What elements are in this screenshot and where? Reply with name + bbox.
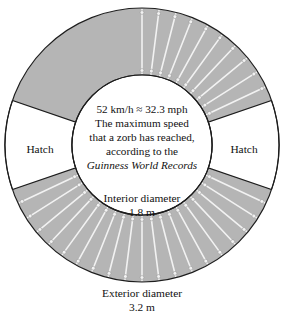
spoke-grommet-icon xyxy=(260,200,264,204)
spoke-grommet-icon xyxy=(91,266,95,270)
spoke-grommet-icon xyxy=(73,175,77,179)
spoke-grommet-icon xyxy=(173,271,177,275)
spoke-grommet-icon xyxy=(184,203,188,207)
spoke-grommet-icon xyxy=(191,197,195,201)
spoke-grommet-icon xyxy=(252,214,256,218)
spoke-grommet-icon xyxy=(140,276,144,280)
spoke-grommet-icon xyxy=(107,271,111,275)
spoke-grommet-icon xyxy=(189,20,193,24)
spoke-grommet-icon xyxy=(203,103,207,107)
spoke-grommet-icon xyxy=(168,212,172,216)
spoke-grommet-icon xyxy=(173,15,177,19)
spoke-grommet-icon xyxy=(157,12,161,16)
spoke-grommet-icon xyxy=(96,203,100,207)
spoke-grommet-icon xyxy=(218,36,222,40)
spoke-grommet-icon xyxy=(242,228,246,232)
spoke-grommet-icon xyxy=(149,69,153,73)
center-note-line-4: according to the xyxy=(106,145,178,157)
spoke-grommet-icon xyxy=(122,215,126,219)
spoke-grommet-icon xyxy=(76,259,80,263)
interior-diameter-value: 1.8 m xyxy=(129,206,155,218)
spoke-grommet-icon xyxy=(176,208,180,212)
spoke-grommet-icon xyxy=(140,218,144,222)
spoke-grommet-icon xyxy=(176,78,180,82)
spoke-grommet-icon xyxy=(123,275,127,279)
spoke-grommet-icon xyxy=(140,11,144,15)
spoke-grommet-icon xyxy=(159,71,163,75)
spoke-grommet-icon xyxy=(113,212,117,216)
spoke-grommet-icon xyxy=(218,250,222,254)
spoke-grommet-icon xyxy=(28,214,32,218)
center-note-source: Guinness World Records xyxy=(87,159,198,171)
spoke-grommet-icon xyxy=(260,87,264,91)
spoke-grommet-icon xyxy=(208,111,212,115)
spoke-grommet-icon xyxy=(184,83,188,87)
spoke-grommet-icon xyxy=(77,183,81,187)
hatch-label-right: Hatch xyxy=(230,143,258,155)
spoke-grommet-icon xyxy=(189,266,193,270)
exterior-diameter-label: Exterior diameter 3.2 m xyxy=(102,287,182,313)
spoke-grommet-icon xyxy=(242,59,246,63)
zorb-cross-section-svg: 52 km/h ≈ 32.3 mph The maximum speed tha… xyxy=(0,0,284,316)
spoke-grommet-icon xyxy=(198,96,202,100)
zorb-diagram: 52 km/h ≈ 32.3 mph The maximum speed tha… xyxy=(0,0,284,316)
spoke-grommet-icon xyxy=(89,197,93,201)
spoke-grommet-icon xyxy=(83,191,87,195)
spoke-grommet-icon xyxy=(208,175,212,179)
exterior-diameter-text: Exterior diameter xyxy=(102,287,182,299)
center-note-line-3: that a zorb has reached, xyxy=(89,131,194,143)
spoke-grommet-icon xyxy=(204,259,208,263)
spoke-grommet-icon xyxy=(140,69,144,73)
spoke-grommet-icon xyxy=(231,47,235,51)
spoke-grommet-icon xyxy=(203,183,207,187)
spoke-grommet-icon xyxy=(157,275,161,279)
spoke-grommet-icon xyxy=(204,27,208,31)
center-note: 52 km/h ≈ 32.3 mph The maximum speed tha… xyxy=(87,103,198,171)
spoke-grommet-icon xyxy=(20,200,24,204)
spoke-grommet-icon xyxy=(231,240,235,244)
spoke-grommet-icon xyxy=(168,74,172,78)
spoke-grommet-icon xyxy=(252,72,256,76)
spoke-grommet-icon xyxy=(38,228,42,232)
spoke-grommet-icon xyxy=(49,240,53,244)
spoke-grommet-icon xyxy=(159,215,163,219)
center-note-line-1: 52 km/h ≈ 32.3 mph xyxy=(97,103,188,115)
spoke-grommet-icon xyxy=(62,250,66,254)
interior-diameter-text: Interior diameter xyxy=(104,192,181,204)
exterior-diameter-value: 3.2 m xyxy=(129,301,155,313)
center-note-line-2: The maximum speed xyxy=(95,117,189,129)
spoke-grommet-icon xyxy=(191,89,195,93)
spoke-grommet-icon xyxy=(104,208,108,212)
spoke-grommet-icon xyxy=(198,191,202,195)
hatch-label-left: Hatch xyxy=(26,143,54,155)
